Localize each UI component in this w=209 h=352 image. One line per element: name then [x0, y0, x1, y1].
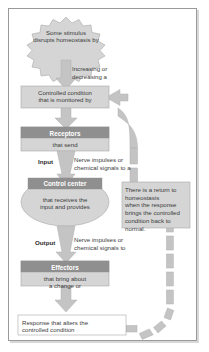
control-center-line-1: that receives the	[24, 196, 106, 203]
response-line-1: Response that alters the	[22, 319, 120, 326]
return-note-line-6: normal.	[125, 225, 187, 233]
effectors-header: Effectors	[22, 264, 108, 271]
return-note-label: There is a return to homeostasis when th…	[125, 186, 187, 232]
input-line-2: chemical signals to a	[74, 164, 136, 172]
effectors-to-response-arrow	[55, 286, 77, 312]
response-label: Response that alters the controlled cond…	[22, 319, 120, 334]
receptors-header: Receptors	[22, 130, 108, 137]
output-label: Output	[35, 239, 55, 246]
increasing-decreasing-line-1: Increasing or	[72, 65, 134, 73]
control-center-header: Control center	[22, 180, 108, 187]
return-note-line-3: when the response	[125, 201, 187, 209]
return-note-line-4: brings the controlled	[125, 209, 187, 217]
output-line-2: chemical signals to	[74, 244, 136, 252]
effectors-line-2: a change or	[22, 282, 108, 289]
response-line-2: controlled condition	[22, 326, 120, 333]
increasing-decreasing-line-2: decreasing a	[72, 73, 134, 81]
input-label: Input	[38, 158, 53, 165]
diagram-page: Some stimulus disrupts homeostasis by In…	[0, 0, 209, 352]
return-note-line-2: homeostasis	[125, 194, 187, 202]
input-line-1: Nerve impulses or	[74, 156, 136, 164]
input-description: Nerve impulses or chemical signals to a	[74, 156, 136, 171]
return-note-line-1: There is a return to	[125, 186, 187, 194]
increasing-decreasing-label: Increasing or decreasing a	[72, 65, 134, 80]
diagram-shapes	[0, 0, 209, 352]
return-note-line-5: condition back to	[125, 217, 187, 225]
control-center-line-2: input and provides	[24, 203, 106, 210]
control-center-body: that receives the input and provides	[24, 196, 106, 211]
receptors-body: that send	[22, 141, 108, 148]
control-center-to-effectors-arrow	[56, 226, 76, 263]
condition-to-receptors-arrow	[55, 108, 77, 129]
output-description: Nerve impulses or chemical signals to	[74, 236, 136, 251]
effectors-line-1: that bring about	[22, 275, 108, 282]
controlled-condition-box	[21, 86, 109, 108]
output-line-1: Nerve impulses or	[74, 236, 136, 244]
effectors-body: that bring about a change or	[22, 275, 108, 290]
